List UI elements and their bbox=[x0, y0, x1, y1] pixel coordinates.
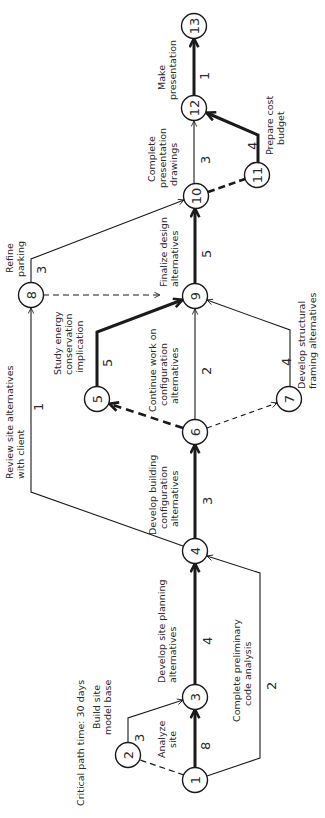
svg-text:alternatives: alternatives bbox=[169, 348, 180, 404]
svg-text:Analyze: Analyze bbox=[156, 720, 167, 758]
duration-8-10: 3 bbox=[34, 266, 49, 274]
label-continue-work-configuration: Continue work on configuration alternati… bbox=[147, 328, 180, 412]
event-node-7: 7 bbox=[277, 387, 302, 412]
dummy-6-7 bbox=[207, 403, 277, 428]
label-prepare-cost-budget: Prepare cost budget bbox=[264, 95, 286, 155]
node-number: 5 bbox=[90, 395, 105, 403]
event-node-10: 10 bbox=[184, 184, 209, 209]
label-review-site-alternatives: Review site alternatives with client bbox=[4, 365, 26, 479]
label-make-presentation: Make presentation bbox=[156, 40, 178, 100]
svg-text:presentation: presentation bbox=[167, 40, 178, 100]
node-number: 10 bbox=[189, 188, 204, 205]
duration-4-6: 3 bbox=[200, 497, 215, 505]
duration-4-8: 1 bbox=[31, 403, 46, 411]
event-node-13: 13 bbox=[182, 14, 207, 39]
svg-text:Study energy: Study energy bbox=[52, 311, 63, 375]
duration-1-4: 2 bbox=[264, 682, 279, 690]
event-node-4: 4 bbox=[183, 539, 208, 564]
node-number: 3 bbox=[188, 693, 203, 701]
duration-3-4: 4 bbox=[200, 637, 215, 645]
svg-text:Complete preliminary: Complete preliminary bbox=[231, 619, 242, 722]
critical-path-time: Critical path time: 30 days bbox=[75, 680, 86, 806]
duration-2-3: 3 bbox=[132, 734, 147, 742]
svg-text:Develop structural: Develop structural bbox=[296, 301, 307, 389]
duration-10-12: 3 bbox=[198, 156, 213, 164]
svg-text:parking: parking bbox=[15, 241, 26, 277]
svg-text:framing alternatives: framing alternatives bbox=[307, 293, 318, 389]
duration-1-3: 8 bbox=[198, 742, 213, 750]
activity-labels: Analyze site 8 Build site model base 3 C… bbox=[4, 40, 318, 806]
arrow-7-9 bbox=[207, 300, 290, 387]
svg-text:conservation: conservation bbox=[63, 314, 74, 375]
event-node-9: 9 bbox=[183, 284, 208, 309]
dummy-10-11 bbox=[208, 179, 245, 192]
node-number: 2 bbox=[121, 751, 136, 759]
label-complete-preliminary-code-analysis: Complete preliminary code analysis bbox=[231, 619, 253, 722]
dummy-1-2 bbox=[140, 760, 184, 775]
event-node-11: 11 bbox=[245, 163, 270, 188]
node-number: 7 bbox=[282, 395, 297, 403]
label-develop-site-planning: Develop site planning alternatives bbox=[156, 579, 178, 683]
svg-text:presentation: presentation bbox=[157, 128, 168, 188]
svg-text:configuration: configuration bbox=[158, 343, 169, 406]
svg-text:Build site: Build site bbox=[91, 685, 102, 729]
label-develop-building-configuration: Develop building configuration alternati… bbox=[147, 455, 180, 535]
node-number: 12 bbox=[187, 100, 202, 117]
event-node-12: 12 bbox=[182, 96, 207, 121]
event-node-3: 3 bbox=[183, 685, 208, 710]
node-number: 6 bbox=[188, 428, 203, 436]
label-finalize-design: Finalize design alternatives bbox=[158, 217, 180, 287]
duration-12-13: 1 bbox=[197, 72, 212, 80]
label-build-site-model-base: Build site model base bbox=[91, 680, 113, 735]
duration-5-9: 5 bbox=[100, 359, 115, 367]
svg-text:code analysis: code analysis bbox=[242, 642, 253, 706]
arrow-11-12 bbox=[207, 113, 258, 163]
svg-text:implication: implication bbox=[74, 321, 85, 373]
node-number: 8 bbox=[24, 291, 39, 299]
svg-text:Refine: Refine bbox=[4, 243, 15, 273]
duration-6-9: 2 bbox=[199, 367, 214, 375]
svg-text:model base: model base bbox=[102, 680, 113, 735]
event-node-5: 5 bbox=[85, 387, 110, 412]
label-complete-presentation-drawings: Complete presentation drawings bbox=[146, 128, 179, 188]
node-number: 4 bbox=[188, 547, 203, 555]
svg-text:drawings: drawings bbox=[168, 143, 179, 186]
node-number: 9 bbox=[188, 292, 203, 300]
svg-text:Make: Make bbox=[156, 65, 167, 90]
label-analyze-site: Analyze site bbox=[156, 720, 178, 758]
svg-text:Finalize design: Finalize design bbox=[158, 217, 169, 287]
svg-text:alternatives: alternatives bbox=[169, 471, 180, 527]
event-node-2: 2 bbox=[116, 743, 141, 768]
event-node-1: 1 bbox=[183, 768, 208, 793]
svg-text:Continue work on: Continue work on bbox=[147, 328, 158, 412]
event-node-8: 8 bbox=[19, 283, 44, 308]
svg-text:with client: with client bbox=[15, 429, 26, 479]
label-refine-parking: Refine parking bbox=[4, 241, 26, 277]
svg-text:Prepare cost: Prepare cost bbox=[264, 95, 275, 155]
svg-text:Complete: Complete bbox=[146, 136, 157, 182]
node-number: 13 bbox=[187, 18, 202, 35]
duration-11-12: 4 bbox=[245, 142, 260, 150]
svg-text:alternatives: alternatives bbox=[167, 627, 178, 683]
event-node-6: 6 bbox=[183, 420, 208, 445]
network-diagram: 12345678910111213 Analyze site 8 Build s… bbox=[0, 0, 325, 818]
label-develop-structural-framing: Develop structural framing alternatives bbox=[296, 293, 318, 389]
label-study-energy-conservation: Study energy conservation implication bbox=[52, 311, 85, 375]
svg-text:Develop site planning: Develop site planning bbox=[156, 579, 167, 683]
duration-9-10: 5 bbox=[199, 250, 214, 258]
svg-text:budget: budget bbox=[275, 111, 286, 145]
svg-text:Review site alternatives: Review site alternatives bbox=[4, 365, 15, 479]
duration-7-9: 4 bbox=[279, 358, 294, 366]
node-number: 11 bbox=[250, 167, 265, 184]
svg-text:alternatives: alternatives bbox=[169, 231, 180, 287]
node-number: 1 bbox=[188, 776, 203, 784]
svg-text:site: site bbox=[167, 731, 178, 748]
svg-text:Develop building: Develop building bbox=[147, 455, 158, 535]
svg-text:configuration: configuration bbox=[158, 466, 169, 529]
